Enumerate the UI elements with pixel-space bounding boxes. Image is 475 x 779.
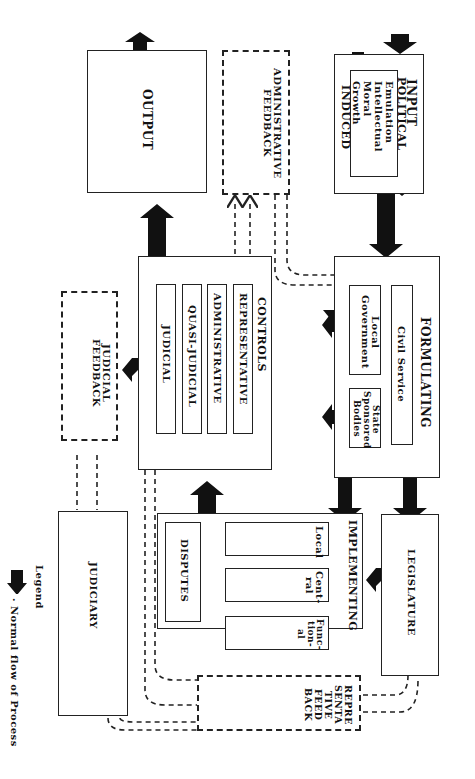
implementing-functional: Func-tion-al xyxy=(225,616,329,650)
inner-moral: Moral xyxy=(362,81,373,117)
representative-feedback-box: REPRE SENTA TIVE FEED BACK xyxy=(197,675,361,731)
control-judicial: JUDICIAL xyxy=(156,284,176,434)
implementing-central: Cent-ral xyxy=(225,568,329,602)
civil-service-box: Civil Service xyxy=(391,285,413,445)
legislature-box: LEGISLATURE xyxy=(381,514,439,676)
disputes-label: DISPUTES xyxy=(178,539,189,602)
implementing-local: Local xyxy=(225,522,329,556)
state-sponsored-label: State Sponsored Bodies xyxy=(352,391,380,447)
inner-intellectual: Intellectual xyxy=(373,81,384,152)
output-box: OUTPUT xyxy=(87,50,207,193)
legend-item: · Normal flow of Process xyxy=(8,598,19,747)
controls-title: CONTROLS xyxy=(255,297,267,372)
legend-title: Legend xyxy=(33,565,44,609)
disputes-box: DISPUTES xyxy=(165,522,201,622)
control-quasi-judicial: QUASI-JUDICIAL xyxy=(182,284,202,434)
legend-arrow-icon xyxy=(0,570,30,594)
local-government-box: Local Government xyxy=(349,285,381,375)
representative-feedback-label: REPRE SENTA TIVE FEED BACK xyxy=(283,681,353,729)
legislature-label: LEGISLATURE xyxy=(405,549,416,636)
administrative-feedback-label: ADMINISTRATIVE FEEDBACK xyxy=(232,58,282,188)
output-title: OUTPUT xyxy=(140,89,153,150)
inner-growth: Growth xyxy=(351,81,362,125)
inner-emulation: Emulation xyxy=(384,81,395,144)
local-government-label: Local Government xyxy=(352,290,380,374)
control-administrative: ADMINISTRATIVE xyxy=(207,284,227,434)
judiciary-box: JUDICIARY xyxy=(58,511,128,716)
formulating-title: FORMULATING xyxy=(418,317,431,428)
state-sponsored-box: State Sponsored Bodies xyxy=(349,388,381,448)
administrative-feedback-box: ADMINISTRATIVE FEEDBACK xyxy=(222,50,290,195)
implementing-title: IMPLEMENTING xyxy=(346,520,358,631)
control-representative: REPRESENTATIVE xyxy=(233,284,253,434)
input-inner-box: Emulation Intellectual Moral Growth xyxy=(350,70,398,177)
induced-label: INDUCED xyxy=(339,85,351,150)
civil-service-label: Civil Service xyxy=(395,326,406,402)
judiciary-label: JUDICIARY xyxy=(87,562,98,629)
judicial-feedback-label: JUDICIAL FEEDBACK xyxy=(71,323,111,423)
judicial-feedback-box: JUDICIAL FEEDBACK xyxy=(61,291,118,441)
